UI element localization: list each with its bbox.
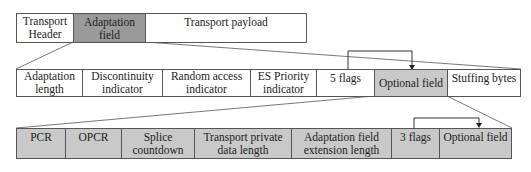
- random-access-indicator-label: Random access indicator: [165, 70, 248, 96]
- discontinuity-indicator-cell: Discontinuity indicator: [82, 69, 163, 97]
- three-flags-label: 3 flags: [400, 131, 431, 144]
- five-flags-label: 5 flags: [330, 72, 361, 85]
- transport-header-label: Transport Header: [19, 15, 71, 41]
- adaptation-field-label: Adaptation field: [76, 16, 143, 42]
- pcr-label: PCR: [30, 131, 52, 144]
- transport-header-cell: Transport Header: [16, 13, 74, 43]
- adaptation-length-cell: Adaptation length: [16, 69, 83, 97]
- random-access-indicator-cell: Random access indicator: [162, 69, 251, 97]
- adaptation-field-extension-length-cell: Adaptation field extension length: [291, 128, 392, 159]
- stuffing-bytes-cell: Stuffing bytes: [447, 69, 521, 97]
- pcr-cell: PCR: [16, 128, 66, 159]
- transport-private-data-length-cell: Transport private data length: [194, 128, 292, 159]
- es-priority-indicator-cell: ES Priority indicator: [250, 69, 317, 97]
- optional-field-label: Optional field: [379, 77, 443, 90]
- five-flags-cell: 5 flags: [316, 69, 375, 97]
- es-priority-indicator-label: ES Priority indicator: [253, 70, 314, 96]
- three-flags-cell: 3 flags: [391, 128, 440, 159]
- transport-payload-cell: Transport payload: [145, 13, 307, 43]
- splice-countdown-cell: Splice countdown: [121, 128, 195, 159]
- stuffing-bytes-label: Stuffing bytes: [452, 72, 517, 85]
- discontinuity-indicator-label: Discontinuity indicator: [85, 70, 160, 96]
- adaptation-field-extension-length-label: Adaptation field extension length: [294, 131, 389, 157]
- transport-private-data-length-label: Transport private data length: [197, 131, 289, 157]
- nested-optional-field-cell: Optional field: [439, 128, 512, 159]
- transport-payload-label: Transport payload: [184, 16, 268, 29]
- adaptation-length-label: Adaptation length: [19, 70, 80, 96]
- adaptation-field-cell: Adaptation field: [73, 13, 146, 43]
- opcr-label: OPCR: [78, 131, 108, 144]
- nested-optional-field-label: Optional field: [443, 131, 507, 144]
- splice-countdown-label: Splice countdown: [124, 131, 192, 157]
- optional-field-cell: Optional field: [374, 69, 448, 97]
- opcr-cell: OPCR: [65, 128, 122, 159]
